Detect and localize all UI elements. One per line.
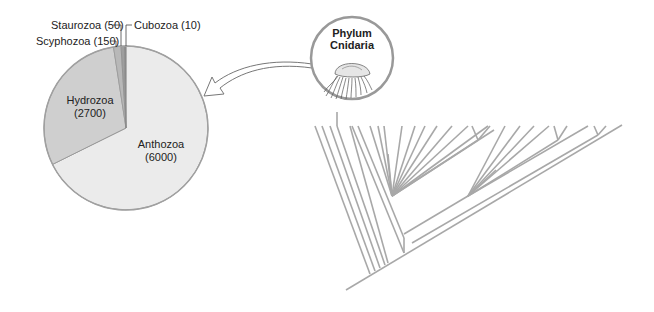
label-anthozoa-name: Anthozoa [131,138,191,151]
label-staurozoa: Staurozoa (50) [51,19,124,31]
curved-arrow-icon [204,62,312,96]
label-hydrozoa-count: (2700) [60,107,120,120]
label-hydrozoa-name: Hydrozoa [60,94,120,107]
callout-title: Phylum Cnidaria [317,27,387,51]
label-anthozoa-count: (6000) [131,151,191,164]
label-anthozoa: Anthozoa (6000) [131,138,191,164]
label-cubozoa: Cubozoa (10) [134,19,201,31]
label-hydrozoa: Hydrozoa (2700) [60,94,120,120]
callout-line1: Phylum [317,27,387,39]
pie-chart [44,46,208,210]
label-scyphozoa: Scyphozoa (150) [36,35,119,47]
phylogenetic-tree [315,112,622,290]
callout-line2: Cnidaria [317,39,387,51]
